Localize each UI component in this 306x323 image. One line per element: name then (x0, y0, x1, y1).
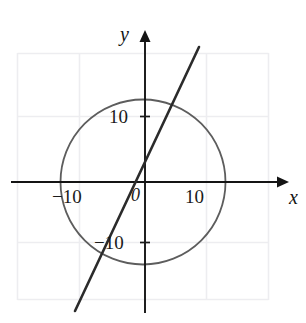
figure-background (0, 0, 306, 323)
x-tick-label-positive-ten: 10 (185, 187, 204, 206)
y-axis-label: y (120, 24, 129, 44)
origin-label: 0 (131, 186, 140, 204)
y-tick-label-negative-ten: −10 (94, 233, 124, 252)
y-tick-label-positive-ten: 10 (109, 107, 128, 126)
x-tick-label-negative-ten: −10 (52, 187, 82, 206)
x-axis-label: x (289, 187, 298, 207)
graph-figure: y x 10 −10 −10 10 0 (0, 0, 306, 323)
plot-canvas (0, 0, 306, 323)
